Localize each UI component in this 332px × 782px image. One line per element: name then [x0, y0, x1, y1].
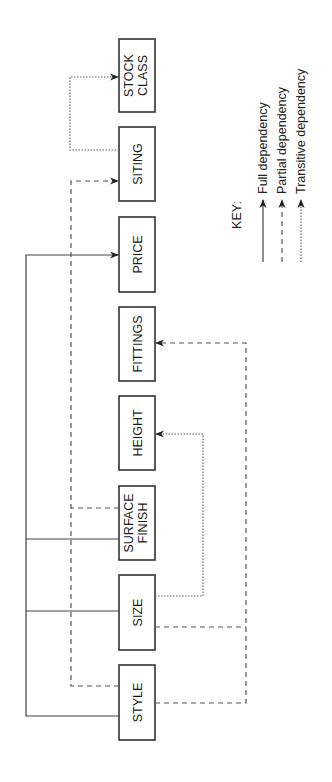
entity-fittings: FITTINGS [119, 307, 155, 381]
partial-dependency-to-fittings [155, 343, 246, 703]
partial-dependency-to-siting [71, 181, 119, 686]
entity-style: STYLE [119, 665, 155, 740]
entity-surface-finish: SURFACE FINISH [119, 486, 155, 560]
entity-label: SURFACE [122, 493, 136, 552]
legend-item-partial: Partial dependency [275, 86, 289, 262]
entity-size: SIZE [119, 575, 155, 650]
entity-label: PRICE [131, 235, 145, 273]
entity-label: STYLE [131, 683, 145, 723]
transitive-dependency-to-stock-class [70, 77, 119, 150]
entity-stock-class: STOCK CLASS [119, 39, 155, 112]
legend-label: Full dependency [256, 102, 270, 194]
entity-label: HEIGHT [131, 409, 145, 457]
transitive-dependency-to-height [155, 434, 203, 596]
legend: KEY: Full dependency Partial dependency … [230, 68, 308, 262]
full-dependency-to-price [26, 255, 119, 716]
entity-label: STOCK [122, 53, 136, 96]
legend-label: Partial dependency [275, 86, 289, 194]
legend-item-full: Full dependency [256, 102, 270, 262]
legend-item-transitive: Transitive dependency [294, 68, 308, 262]
legend-title: KEY: [230, 201, 244, 229]
legend-label: Transitive dependency [294, 68, 308, 194]
entity-label: CLASS [136, 55, 150, 96]
entity-label: SIZE [131, 599, 145, 627]
entity-price: PRICE [119, 217, 155, 292]
entity-label: FITTINGS [131, 316, 145, 373]
entity-label: FINISH [136, 503, 150, 544]
entity-label: SITING [131, 143, 145, 185]
entity-height: HEIGHT [119, 396, 155, 470]
entity-siting: SITING [119, 127, 155, 201]
dependency-diagram: STOCK CLASS SITING PRICE FITTINGS HEIGHT… [0, 0, 332, 782]
